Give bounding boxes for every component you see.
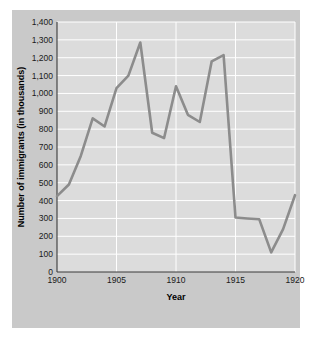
y-tick-label-1100: 1,100 <box>32 71 54 81</box>
x-tick-label-1920: 1920 <box>286 275 305 285</box>
immigration-line-chart: 01002003004005006007008009001,0001,1001,… <box>0 0 312 340</box>
y-tick-label-900: 900 <box>39 106 53 116</box>
y-tick-label-300: 300 <box>39 213 53 223</box>
y-tick-label-200: 200 <box>39 231 53 241</box>
y-tick-label-1400: 1,400 <box>32 17 54 27</box>
x-tick-label-1905: 1905 <box>107 275 126 285</box>
y-tick-label-600: 600 <box>39 160 53 170</box>
y-tick-label-800: 800 <box>39 124 53 134</box>
y-tick-label-400: 400 <box>39 196 53 206</box>
y-tick-label-1000: 1,000 <box>32 88 54 98</box>
y-tick-label-700: 700 <box>39 142 53 152</box>
chart-figure: 01002003004005006007008009001,0001,1001,… <box>0 0 312 340</box>
y-tick-label-1200: 1,200 <box>32 53 54 63</box>
x-tick-label-1910: 1910 <box>167 275 186 285</box>
y-tick-label-500: 500 <box>39 178 53 188</box>
x-tick-label-1915: 1915 <box>226 275 245 285</box>
y-axis-tick-labels: 01002003004005006007008009001,0001,1001,… <box>32 17 54 277</box>
y-tick-label-1300: 1,300 <box>32 35 54 45</box>
x-tick-label-1900: 1900 <box>48 275 67 285</box>
x-axis-tick-labels: 19001905191019151920 <box>48 275 305 285</box>
y-tick-label-100: 100 <box>39 249 53 259</box>
x-axis-title: Year <box>166 292 186 302</box>
y-axis-title: Number of immigrants (in thousands) <box>16 67 26 228</box>
